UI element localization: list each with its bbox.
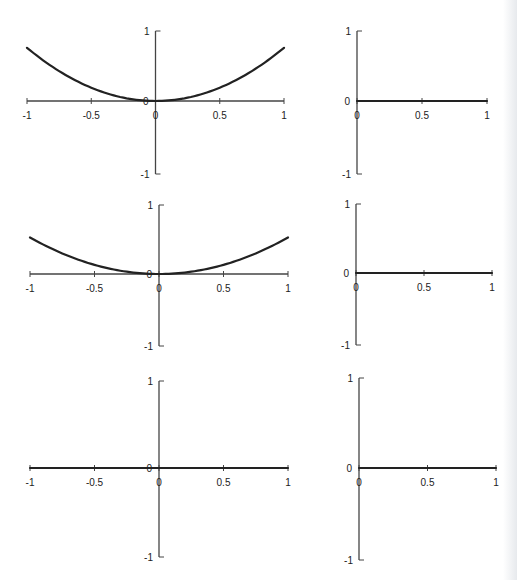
y-tick-label: -1 <box>144 341 153 352</box>
page-edge-shadow <box>503 0 517 580</box>
y-tick-label: 1 <box>347 373 353 384</box>
y-tick-label: -1 <box>342 169 351 180</box>
plot-panel-row1-right: 00.51-101 <box>342 26 490 180</box>
y-tick-label: 0 <box>346 463 352 474</box>
plot-panel-row2-right: 00.51-101 <box>341 199 495 351</box>
y-tick-label: 1 <box>147 376 153 387</box>
x-tick-label: 0 <box>356 477 362 488</box>
y-tick-label: -1 <box>341 340 350 351</box>
plot-grid: -1-0.500.51-10100.51-101-1-0.500.51-1010… <box>0 0 517 580</box>
y-tick-label: -1 <box>144 552 153 563</box>
x-tick-label: 1 <box>285 283 291 294</box>
x-tick-label: 1 <box>489 282 495 293</box>
plot-panel-row1-left: -1-0.500.51-101 <box>23 26 288 180</box>
y-tick-label: 1 <box>344 199 350 210</box>
plot-panel-row3-right: 00.51-101 <box>344 373 499 566</box>
y-tick-label: -1 <box>141 169 150 180</box>
x-tick-label: 0.5 <box>417 282 431 293</box>
y-tick-label: -1 <box>344 555 353 566</box>
y-tick-label: 1 <box>144 26 150 37</box>
x-tick-label: 1 <box>493 477 499 488</box>
y-tick-label: 0 <box>344 96 350 107</box>
x-tick-label: 0 <box>153 110 159 121</box>
x-tick-label: 1 <box>484 110 490 121</box>
x-tick-label: -1 <box>26 477 35 488</box>
plot-panel-row2-left: -1-0.500.51-101 <box>26 200 292 352</box>
x-tick-label: 0 <box>156 283 162 294</box>
x-tick-label: -1 <box>26 283 35 294</box>
x-tick-label: 0.5 <box>421 477 435 488</box>
x-tick-label: 0.5 <box>217 477 231 488</box>
x-tick-label: -0.5 <box>86 477 104 488</box>
x-tick-label: 1 <box>285 477 291 488</box>
x-tick-label: 0 <box>353 282 359 293</box>
x-tick-label: 1 <box>281 110 287 121</box>
y-tick-label: 1 <box>345 26 351 37</box>
x-tick-label: 0.5 <box>213 110 227 121</box>
y-tick-label: 0 <box>343 268 349 279</box>
x-tick-label: -0.5 <box>83 110 101 121</box>
y-tick-label: 1 <box>147 200 153 211</box>
plot-panel-row3-left: -1-0.500.51-101 <box>26 376 292 563</box>
figure: -1-0.500.51-10100.51-101-1-0.500.51-1010… <box>0 0 517 580</box>
x-tick-label: 0.5 <box>217 283 231 294</box>
x-tick-label: 0 <box>156 477 162 488</box>
x-tick-label: -0.5 <box>86 283 104 294</box>
x-tick-label: 0.5 <box>415 110 429 121</box>
x-tick-label: -1 <box>23 110 32 121</box>
x-tick-label: 0 <box>354 110 360 121</box>
